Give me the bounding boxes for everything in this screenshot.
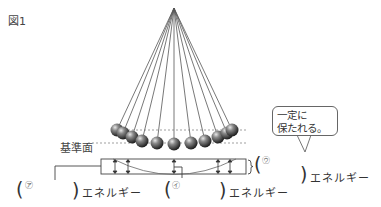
bubble-line-1: 一定に (277, 109, 333, 122)
blank-a-close-paren: ) (72, 181, 79, 200)
blank-b-close-paren: ) (219, 181, 226, 200)
reference-plane-label: 基準面 (60, 139, 93, 155)
blank-a-suffix: エネルギー (82, 184, 142, 200)
blank-a-open-paren: ( (16, 180, 23, 199)
pendulum-balls (111, 124, 239, 151)
blank-c-open-paren: ( (254, 155, 261, 174)
blank-b-suffix: エネルギー (229, 184, 289, 200)
bubble-line-2: 保たれる。 (277, 122, 333, 135)
pendulum-strings (117, 8, 232, 144)
blank-b-symbol: ㋑ (172, 179, 180, 190)
blank-c-suffix: エネルギー (310, 169, 370, 185)
speech-bubble: 一定に 保たれる。 (272, 106, 338, 136)
bubble-tail (297, 135, 311, 152)
blank-b-open-paren: ( (164, 180, 171, 199)
blank-c-close-paren: ) (300, 165, 307, 184)
blank-a-symbol: ㋐ (25, 179, 33, 190)
blank-c-symbol: ㋒ (262, 154, 270, 165)
energy-box (55, 159, 253, 180)
